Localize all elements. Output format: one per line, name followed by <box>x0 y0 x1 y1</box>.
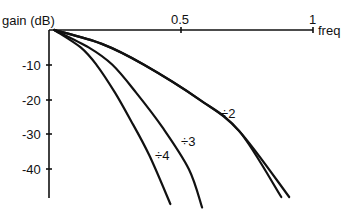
annotation-div2: ÷2 <box>221 106 235 121</box>
x-tick-label-0.5: 0.5 <box>171 12 189 27</box>
x-tick-label-1: 1 <box>309 12 316 27</box>
curves <box>54 30 289 208</box>
annotation-div4: ÷4 <box>155 148 169 163</box>
x-axis-label: freq <box>318 23 340 38</box>
annotation-div3: ÷3 <box>181 134 195 149</box>
y-tick-label-40: -40 <box>22 162 41 177</box>
curve-4 <box>54 30 170 204</box>
y-axis-label: gain (dB) <box>2 13 55 28</box>
y-tick-label-30: -30 <box>22 127 41 142</box>
y-tick-label-10: -10 <box>22 58 41 73</box>
y-tick-label-20: -20 <box>22 93 41 108</box>
gain-chart: gain (dB) freq 0.5 1 -10 -20 -30 -40 ÷2 … <box>0 0 360 221</box>
